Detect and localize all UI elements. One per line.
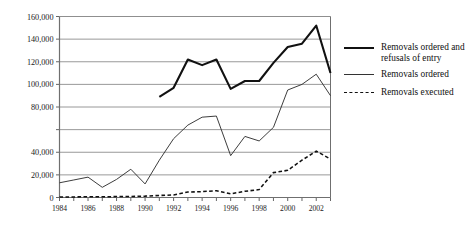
legend-label: Removals ordered and refusals of entry xyxy=(381,42,468,63)
x-tick-label: 1998 xyxy=(252,204,267,213)
chart-legend: Removals ordered and refusals of entry R… xyxy=(344,42,468,105)
line-chart-plot: 020,00040,00080,000100,000120,000140,000… xyxy=(0,0,468,227)
x-tick-label: 1986 xyxy=(80,204,95,213)
legend-swatch-thick-solid-icon xyxy=(344,42,374,54)
y-tick-label: 140,000 xyxy=(27,35,54,44)
y-tick-label: 40,000 xyxy=(31,148,54,157)
x-tick-label: 1988 xyxy=(109,204,124,213)
x-tick-label: 1996 xyxy=(223,204,238,213)
x-tick-label: 1994 xyxy=(195,204,210,213)
y-tick-label: 0 xyxy=(49,194,53,203)
y-axis-tick-labels: 020,00040,00080,000100,000120,000140,000… xyxy=(27,13,54,203)
x-tick-label: 1990 xyxy=(137,204,152,213)
legend-swatch-dashed-icon xyxy=(344,87,374,99)
y-tick-label: 160,000 xyxy=(27,13,54,22)
legend-item-removals-ordered-and-refusals: Removals ordered and refusals of entry xyxy=(344,42,468,63)
legend-item-removals-ordered: Removals ordered xyxy=(344,69,468,81)
series-line xyxy=(60,74,331,187)
series-line xyxy=(159,26,330,97)
chart-figure: 020,00040,00080,000100,000120,000140,000… xyxy=(0,0,468,227)
x-tick-label: 2000 xyxy=(280,204,295,213)
x-axis-tick-labels: 1984198619881990199219941996199820002002 xyxy=(52,204,324,213)
x-tick-label: 1984 xyxy=(52,204,67,213)
y-gridlines xyxy=(60,17,331,198)
series-line xyxy=(60,151,331,197)
y-tick-label: 120,000 xyxy=(27,58,54,67)
y-tick-label: 80,000 xyxy=(31,103,54,112)
legend-item-removals-executed: Removals executed xyxy=(344,87,468,99)
x-tick-label: 2002 xyxy=(309,204,324,213)
data-series-layer xyxy=(60,26,331,198)
legend-label: Removals executed xyxy=(381,87,454,98)
x-tick-label: 1992 xyxy=(166,204,181,213)
y-tick-label: 20,000 xyxy=(31,171,54,180)
legend-label: Removals ordered xyxy=(381,69,449,80)
legend-swatch-thin-solid-icon xyxy=(344,69,374,81)
y-tick-label: 100,000 xyxy=(27,80,54,89)
